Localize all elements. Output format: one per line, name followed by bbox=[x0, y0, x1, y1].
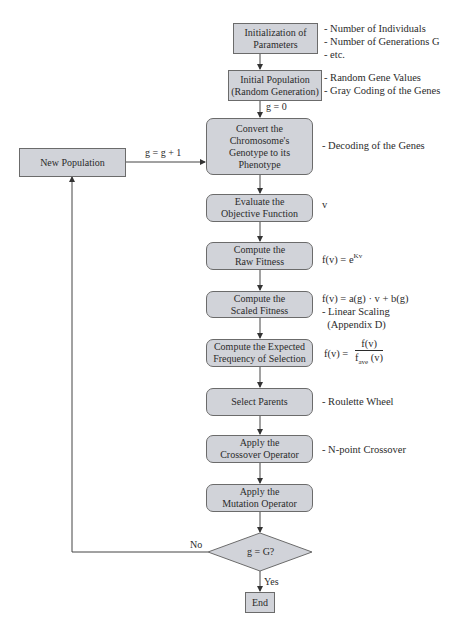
step-select-parents: Select Parents bbox=[206, 388, 313, 416]
note-convert: - Decoding of the Genes bbox=[322, 139, 425, 152]
note-raw: f(v) = eKv bbox=[322, 250, 362, 266]
note-crossover: - N-point Crossover bbox=[322, 443, 406, 456]
step-crossover: Apply the Crossover Operator bbox=[206, 435, 313, 463]
label-no: No bbox=[190, 539, 202, 550]
note-scaled: f(v) = a(g) · v + b(g) - Linear Scaling … bbox=[322, 292, 408, 331]
note-select: - Roulette Wheel bbox=[322, 395, 394, 408]
step-raw-fitness: Compute the Raw Fitness bbox=[206, 242, 313, 270]
new-population-box: New Population bbox=[19, 148, 126, 177]
label-g-init: g = 0 bbox=[266, 101, 287, 112]
step-initialization: Initialization of Parameters bbox=[233, 23, 318, 54]
step-mutation: Apply the Mutation Operator bbox=[206, 484, 313, 512]
decision-label: g = G? bbox=[247, 546, 274, 557]
end-box: End bbox=[245, 592, 275, 613]
note-evaluate: v bbox=[322, 198, 327, 211]
label-g-increment: g = g + 1 bbox=[145, 147, 181, 158]
step-expected-frequency: Compute the Expected Frequency of Select… bbox=[206, 339, 313, 367]
expected-fraction: f(v) fave (v) bbox=[355, 338, 383, 366]
fraction-bar bbox=[355, 350, 383, 351]
fraction-numerator: f(v) bbox=[355, 338, 383, 349]
step-initial-population: Initial Population (Random Generation) bbox=[228, 70, 322, 101]
raw-formula: f(v) = e bbox=[322, 254, 354, 265]
raw-exponent: Kv bbox=[354, 252, 363, 260]
step-scaled-fitness: Compute the Scaled Fitness bbox=[206, 291, 313, 318]
note-init: - Number of Individuals - Number of Gene… bbox=[324, 22, 439, 61]
step-evaluate-objective: Evaluate the Objective Function bbox=[206, 194, 313, 222]
note-expected: f(v) = bbox=[324, 347, 351, 360]
note-initpop: - Random Gene Values - Gray Coding of th… bbox=[324, 71, 440, 97]
fraction-denominator: fave (v) bbox=[355, 352, 383, 366]
label-yes: Yes bbox=[264, 576, 279, 587]
step-convert-genotype: Convert the Chromosome's Genotype to its… bbox=[206, 118, 313, 175]
